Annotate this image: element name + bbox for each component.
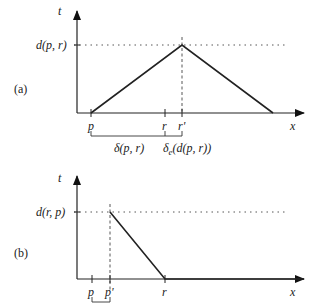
tick-label-p: p — [87, 285, 94, 299]
tick-label-p: p — [87, 119, 94, 133]
distance-bracket — [91, 131, 182, 136]
figure: t x d(p, r) (a) p r r' δ(p, r) δe(d(p, r… — [0, 0, 317, 304]
panel-tag: (b) — [14, 246, 28, 260]
level-label: d(r, p) — [36, 205, 65, 219]
x-axis-label: x — [289, 285, 296, 299]
y-axis-label: t — [58, 171, 62, 185]
panel-b: t x d(r, p) (b) p p' r — [14, 171, 304, 302]
decay-curve — [110, 212, 304, 279]
panel-tag: (a) — [14, 82, 27, 96]
y-axis-label: t — [58, 4, 62, 18]
panel-a: t x d(p, r) (a) p r r' δ(p, r) δe(d(p, r… — [14, 4, 304, 157]
tick-label-p-prime: p' — [104, 285, 114, 299]
delta-e-label: δe(d(p, r)) — [163, 141, 211, 157]
x-axis-label: x — [289, 119, 296, 133]
delta-label: δ(p, r) — [114, 141, 144, 155]
tick-label-r: r — [162, 119, 167, 133]
tick-label-r: r — [162, 285, 167, 299]
level-label: d(p, r) — [36, 38, 67, 52]
tick-label-r-prime: r' — [178, 119, 186, 133]
